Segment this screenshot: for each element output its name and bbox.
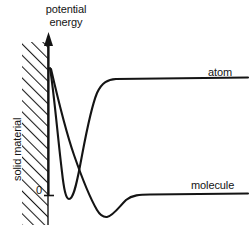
solid-material-label: solid material <box>11 101 24 197</box>
curve-molecule <box>51 69 248 217</box>
diagram-canvas <box>0 0 250 239</box>
zero-tick-label: 0 <box>36 184 42 197</box>
curve-label-atom: atom <box>208 66 232 79</box>
axis-title: potentialenergy <box>30 3 102 28</box>
axis-title-line1: potential <box>46 3 87 15</box>
solid-material-hatching <box>22 42 48 225</box>
curve-label-molecule: molecule <box>191 179 234 192</box>
axis-title-line2: energy <box>49 16 82 28</box>
potential-energy-diagram: potentialenergy solid material 0 atom mo… <box>0 0 250 239</box>
axis-arrow-icon <box>44 32 53 46</box>
